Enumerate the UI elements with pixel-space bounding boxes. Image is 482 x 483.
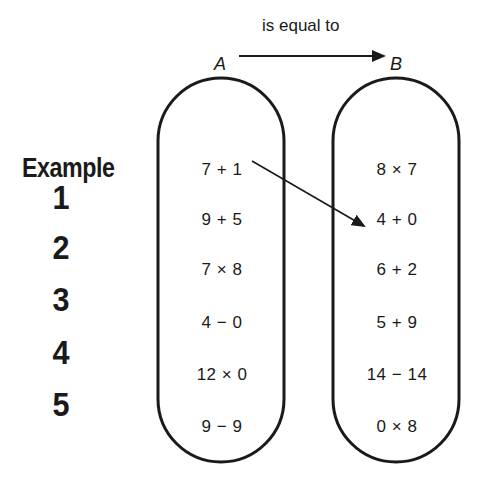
row-label-3: 3 [48, 280, 75, 319]
set-a-item: 4 − 0 [158, 313, 286, 333]
set-a-item: 7 + 1 [158, 160, 286, 180]
set-a-item: 12 × 0 [158, 365, 286, 385]
set-a-item: 7 × 8 [158, 260, 286, 280]
row-label-5: 5 [48, 385, 75, 424]
set-a-item: 9 + 5 [158, 210, 286, 230]
row-label-example: Example [22, 153, 134, 184]
set-a-label: A [214, 54, 226, 75]
row-label-1: 1 [48, 178, 75, 217]
set-b-item: 6 + 2 [333, 260, 461, 280]
row-label-4: 4 [48, 333, 75, 372]
set-a-item: 9 − 9 [158, 417, 286, 437]
set-b-item: 14 − 14 [333, 365, 461, 385]
set-b-item: 5 + 9 [333, 313, 461, 333]
set-b-item: 8 × 7 [333, 160, 461, 180]
relation-label: is equal to [262, 16, 340, 36]
row-label-2: 2 [48, 228, 75, 267]
set-b-item: 0 × 8 [333, 417, 461, 437]
set-b-label: B [390, 54, 402, 75]
set-b-item: 4 + 0 [333, 210, 461, 230]
